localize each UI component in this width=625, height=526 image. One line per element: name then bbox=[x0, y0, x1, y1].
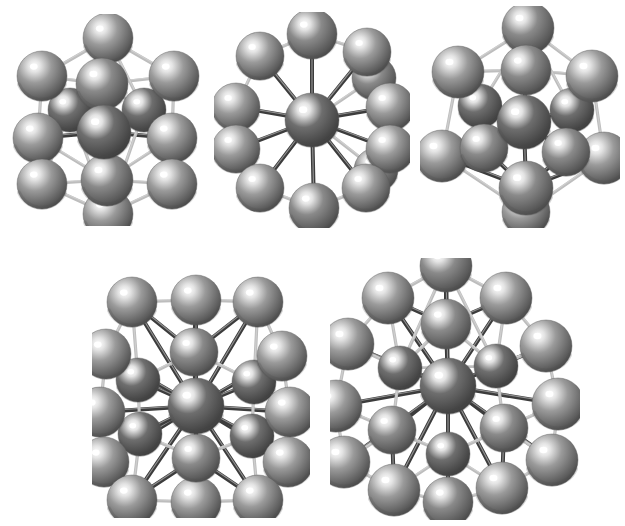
atom-sphere bbox=[147, 113, 197, 163]
atom-sphere bbox=[520, 320, 572, 372]
atom-sphere bbox=[366, 83, 410, 131]
atom-sphere bbox=[421, 299, 471, 349]
atom-sphere bbox=[214, 83, 260, 131]
atom-sphere bbox=[476, 462, 528, 514]
atom-layer bbox=[330, 258, 580, 520]
atom-sphere bbox=[147, 159, 197, 209]
atom-sphere bbox=[13, 113, 63, 163]
atom-sphere bbox=[368, 464, 420, 516]
atom-sphere bbox=[423, 477, 473, 520]
atom-sphere bbox=[368, 406, 416, 454]
atom-layer bbox=[214, 12, 410, 228]
atom-sphere bbox=[289, 183, 339, 228]
atom-sphere bbox=[17, 51, 67, 101]
atom-sphere bbox=[362, 272, 414, 324]
cluster-19-elongated bbox=[92, 272, 310, 518]
icosahedral-cluster-13 bbox=[12, 14, 204, 226]
atom-sphere bbox=[532, 378, 580, 430]
atom-sphere bbox=[501, 45, 551, 95]
atom-layer bbox=[13, 14, 199, 226]
atom-sphere bbox=[149, 51, 199, 101]
atom-sphere bbox=[285, 93, 339, 147]
icosahedral-cluster-13-rotated bbox=[420, 6, 620, 228]
atom-sphere bbox=[257, 331, 307, 381]
centered-ring-cluster-13 bbox=[214, 12, 410, 228]
atom-sphere bbox=[343, 28, 391, 76]
atom-sphere bbox=[76, 58, 128, 110]
atom-sphere bbox=[432, 46, 484, 98]
atom-sphere bbox=[92, 329, 131, 379]
atom-sphere bbox=[420, 358, 476, 414]
atom-sphere bbox=[480, 272, 532, 324]
atom-sphere bbox=[233, 277, 283, 327]
atom-sphere bbox=[236, 32, 284, 80]
atom-sphere bbox=[526, 434, 578, 486]
atom-layer bbox=[92, 275, 310, 518]
atom-sphere bbox=[420, 258, 472, 292]
atom-sphere bbox=[330, 380, 362, 432]
atom-sphere bbox=[378, 346, 422, 390]
atom-sphere bbox=[330, 436, 370, 488]
atom-sphere bbox=[566, 50, 618, 102]
atom-sphere bbox=[497, 95, 551, 149]
atom-sphere bbox=[83, 14, 133, 63]
atom-sphere bbox=[287, 12, 337, 59]
atom-sphere bbox=[171, 275, 221, 325]
atom-sphere bbox=[168, 378, 224, 434]
atom-sphere bbox=[342, 164, 390, 212]
atom-sphere bbox=[499, 161, 553, 215]
atom-sphere bbox=[107, 277, 157, 327]
atom-sphere bbox=[236, 164, 284, 212]
atom-sphere bbox=[265, 387, 310, 437]
atom-sphere bbox=[77, 105, 131, 159]
atom-sphere bbox=[480, 404, 528, 452]
atom-sphere bbox=[330, 318, 374, 370]
atom-sphere bbox=[172, 434, 220, 482]
figure-root bbox=[0, 0, 625, 526]
atom-sphere bbox=[170, 328, 218, 376]
atom-sphere bbox=[17, 159, 67, 209]
atom-sphere bbox=[426, 432, 470, 476]
atom-sphere bbox=[81, 154, 133, 206]
atom-sphere bbox=[171, 477, 221, 518]
atom-sphere bbox=[474, 344, 518, 388]
cluster-19-icosahedral bbox=[330, 258, 580, 520]
